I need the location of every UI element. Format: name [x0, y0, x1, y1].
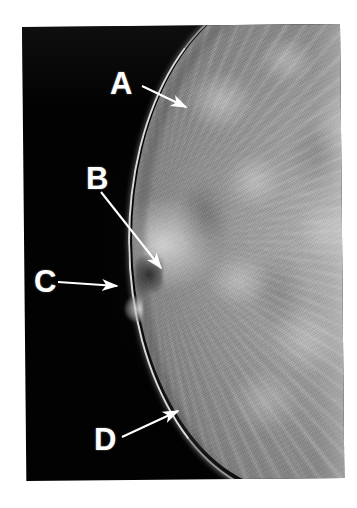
film-grain-layer — [130, 24, 345, 481]
annotation-label-b[interactable]: B — [86, 163, 108, 194]
breast-image-region — [22, 24, 344, 481]
radiograph-film — [22, 24, 344, 481]
annotation-label-a[interactable]: A — [110, 68, 132, 99]
annotation-label-d[interactable]: D — [94, 424, 116, 455]
ductal-streak-layer — [130, 24, 345, 481]
dark-nodule-region — [135, 252, 162, 297]
retroareolar-density — [134, 191, 267, 302]
annotation-label-c[interactable]: C — [34, 266, 56, 297]
trabecular-streak-layer — [130, 24, 345, 481]
glandular-texture-layer — [130, 24, 345, 481]
breast-tissue — [130, 24, 345, 481]
mammogram-figure: A B C D — [0, 0, 357, 508]
